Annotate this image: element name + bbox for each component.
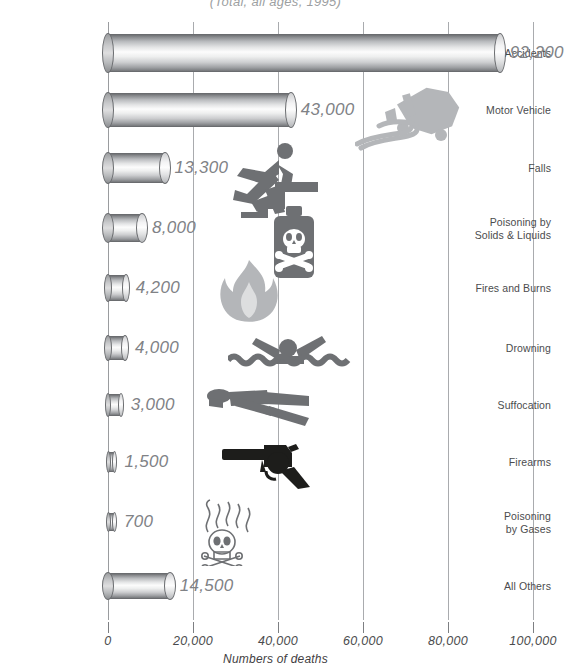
bar-value-label: 1,500 [124, 452, 168, 472]
category-label-line: by Gases [447, 522, 551, 535]
revolver-icon [222, 443, 320, 491]
bar-body [108, 34, 500, 72]
x-axis-tick-label: 100,000 [509, 634, 556, 648]
bar-all-accidents [108, 34, 500, 72]
x-axis-title: Numbers of deaths [0, 652, 551, 666]
bar-value-label: 92,200 [510, 43, 564, 63]
x-axis-tick-label: 60,000 [343, 634, 383, 648]
person-prone-icon [205, 382, 317, 426]
bar-left-edge [102, 152, 114, 184]
x-axis-tick-label: 0 [104, 634, 111, 648]
bar-all-others [108, 573, 170, 599]
category-label: All Others [447, 580, 551, 592]
bar-suffocation [108, 394, 121, 416]
bar-left-edge [106, 512, 111, 532]
bar-left-edge [102, 572, 114, 600]
x-axis-tick [363, 622, 364, 633]
bar-left-edge [102, 33, 114, 73]
bar-end-cap [494, 33, 506, 73]
bar-body [108, 93, 291, 127]
bar-left-edge [104, 335, 112, 361]
bar-value-label: 3,000 [131, 395, 175, 415]
category-label: Falls [447, 162, 551, 174]
category-label: Drowning [447, 342, 551, 354]
category-label-line: Firearms [447, 456, 551, 468]
category-label: Fires and Burns [447, 282, 551, 294]
category-label-line: Falls [447, 162, 551, 174]
bar-end-cap [285, 92, 297, 128]
bar-value-label: 700 [124, 512, 153, 532]
category-label: Suffocation [447, 399, 551, 411]
bar-value-label: 8,000 [152, 218, 196, 238]
bar-fires-and-burns [108, 275, 126, 301]
x-axis-tick [448, 622, 449, 633]
bar-firearms [108, 452, 114, 472]
bar-drowning [108, 336, 125, 360]
category-label: Poisoning bySolids & Liquids [447, 216, 551, 241]
bar-value-label: 14,500 [180, 576, 234, 596]
category-label-line: Suffocation [447, 399, 551, 411]
category-label-line: Fires and Burns [447, 282, 551, 294]
bar-left-edge [104, 274, 112, 302]
bar-end-cap [112, 512, 117, 532]
bar-end-cap [118, 393, 124, 417]
x-axis-tick-label: 80,000 [428, 634, 468, 648]
overturned-car-icon [355, 86, 473, 152]
bar-left-edge [106, 451, 111, 473]
bar-value-label: 4,200 [136, 278, 180, 298]
x-axis-tick [193, 622, 194, 633]
bar-end-cap [112, 451, 117, 473]
flame-icon [215, 258, 283, 326]
x-axis-tick [108, 622, 109, 633]
bar-end-cap [164, 572, 176, 600]
category-label-line: Poisoning [447, 510, 551, 523]
bar-falls [108, 153, 165, 183]
bar-poisoning-by-gases [108, 513, 114, 531]
category-label-line: Drowning [447, 342, 551, 354]
x-axis-tick [533, 622, 534, 633]
chart-subtitle: (Total, all ages, 1995) [0, 0, 551, 9]
bar-end-cap [136, 213, 148, 243]
bar-value-label: 43,000 [301, 100, 355, 120]
category-label-line: Poisoning by [447, 216, 551, 229]
x-axis-tick-label: 40,000 [258, 634, 298, 648]
category-label-line: All Others [447, 580, 551, 592]
bar-end-cap [159, 152, 171, 184]
bar-left-edge [102, 92, 114, 128]
category-label-line: Solids & Liquids [447, 228, 551, 241]
bar-body [108, 573, 170, 599]
swimmer-drowning-icon [228, 334, 352, 372]
bar-body [108, 153, 165, 183]
bar-value-label: 4,000 [135, 338, 179, 358]
x-axis-tick-label: 20,000 [173, 634, 213, 648]
category-label: Firearms [447, 456, 551, 468]
bar-motor-vehicle [108, 93, 291, 127]
bar-end-cap [121, 335, 129, 361]
bar-poisoning-by-solids-liquids [108, 214, 142, 242]
bar-left-edge [105, 393, 111, 417]
bar-left-edge [102, 213, 114, 243]
category-label: Poisoningby Gases [447, 510, 551, 535]
x-axis-tick [278, 622, 279, 633]
bar-end-cap [122, 274, 130, 302]
skull-fumes-icon [194, 498, 266, 566]
